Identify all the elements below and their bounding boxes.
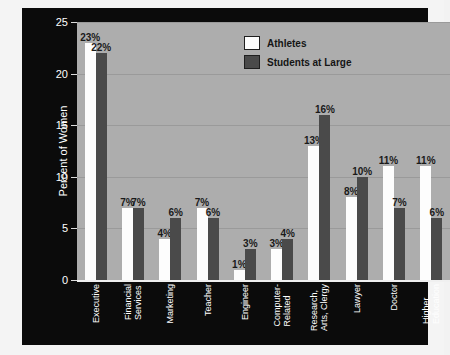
x-axis-category-label: Financial Services [123,284,143,320]
x-axis-category-label: Executive [91,284,101,323]
y-tick-label: 15 [42,119,68,131]
bar: 6% [431,218,442,280]
bar-value-label: 16% [315,104,335,115]
bar: 1% [234,270,245,280]
x-label-cell: Executive [77,282,114,352]
bar-group: 11%7% [375,22,412,280]
x-label-cell: Higher Education [413,282,450,352]
bar-value-label: 6% [169,207,183,218]
bar: 23% [85,43,96,280]
bar-value-label: 3% [243,238,257,249]
x-axis-category-label: Lawyer [352,284,362,313]
bar-group: 7%7% [114,22,151,280]
x-axis-category-label: Research, Arts, Clergy [309,284,329,331]
y-tick-label: 25 [42,16,68,28]
bar-value-label: 4% [280,228,294,239]
legend: Athletes Students at Large [244,36,351,74]
bar: 3% [245,249,256,280]
x-axis-category-label: Engineer [240,284,250,320]
legend-swatch-icon-athletes [244,36,260,50]
bar: 11% [420,166,431,280]
x-label-cell: Teacher [189,282,226,352]
y-tick-label: 5 [42,222,68,234]
bar-value-label: 11% [379,155,398,166]
x-axis-category-label: Marketing [165,284,175,324]
bar-value-label: 6% [206,207,220,218]
legend-label-students-at-large: Students at Large [267,57,351,68]
bar-group: 23%22% [77,22,114,280]
bar: 16% [319,115,330,280]
x-axis-category-label: Higher Education [421,284,441,324]
bar-value-label: 22% [91,42,111,53]
legend-swatch-icon-students [244,55,260,69]
y-tick-label: 10 [42,171,68,183]
bar: 10% [357,177,368,280]
x-label-cell: Computer- Related [263,282,300,352]
x-axis-category-label: Teacher [203,284,213,316]
bar: 22% [96,53,107,280]
bar: 6% [208,218,219,280]
bar: 11% [383,166,394,280]
y-tick-label: 0 [42,274,68,286]
bar: 7% [133,208,144,280]
bar: 7% [122,208,133,280]
legend-item-athletes: Athletes [244,36,351,50]
bar-group: 4%6% [152,22,189,280]
bar-group: 11%6% [413,22,450,280]
chart-panel: Percent of Women 0510152025 23%22%7%7%4%… [22,8,428,345]
bar-group: 7%6% [189,22,226,280]
bar: 7% [197,208,208,280]
bar-value-label: 7% [131,197,145,208]
y-axis: Percent of Women 0510152025 [22,22,77,280]
bar: 4% [282,239,293,280]
x-axis-category-label: Computer- Related [272,284,292,327]
bar-value-label: 11% [416,155,435,166]
bar: 13% [308,146,319,280]
x-axis-category-label: Doctor [389,284,399,311]
y-tick-label: 20 [42,68,68,80]
bar-value-label: 7% [392,197,406,208]
x-label-cell: Financial Services [114,282,151,352]
legend-label-athletes: Athletes [267,38,306,49]
x-label-cell: Lawyer [338,282,375,352]
bar: 6% [170,218,181,280]
x-label-cell: Marketing [152,282,189,352]
bar: 7% [394,208,405,280]
legend-item-students-at-large: Students at Large [244,55,351,69]
bar-value-label: 10% [352,166,372,177]
x-axis-labels: ExecutiveFinancial ServicesMarketingTeac… [77,282,450,352]
x-label-cell: Engineer [226,282,263,352]
bar-value-label: 6% [430,207,444,218]
x-label-cell: Research, Arts, Clergy [301,282,338,352]
bar: 3% [271,249,282,280]
bar: 4% [159,239,170,280]
x-label-cell: Doctor [375,282,412,352]
bar: 8% [346,197,357,280]
